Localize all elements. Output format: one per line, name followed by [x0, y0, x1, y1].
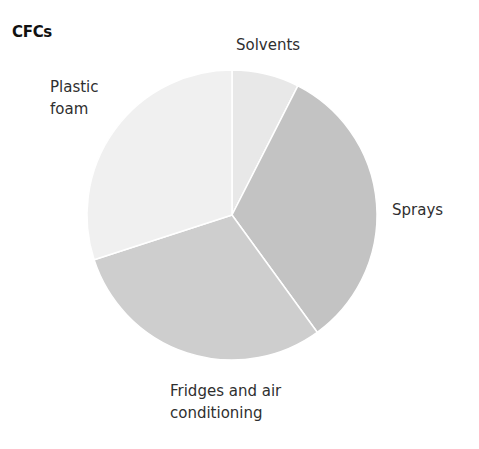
slice-label-sprays-line-1: Sprays	[392, 199, 443, 221]
slice-label-plastic-line-2: foam	[50, 98, 99, 120]
slice-label-fridges-line-1: Fridges and air	[170, 380, 281, 402]
slice-label-plastic-foam: Plastic foam	[50, 76, 99, 120]
slice-label-fridges-line-2: conditioning	[170, 402, 281, 424]
slice-label-sprays: Sprays	[392, 199, 443, 221]
slice-label-solvents-line-1: Solvents	[236, 34, 300, 56]
slice-label-plastic-line-1: Plastic	[50, 76, 99, 98]
slice-label-solvents: Solvents	[236, 34, 300, 56]
slice-label-fridges: Fridges and air conditioning	[170, 380, 281, 424]
